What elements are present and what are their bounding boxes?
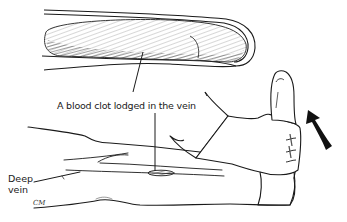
illustration-artwork: [0, 0, 347, 222]
clot-label: A blood clot lodged in the vein: [57, 100, 196, 111]
curved-arrow-up-icon: [306, 110, 332, 150]
vein-magnified: [42, 10, 255, 92]
deep-vein-label-line2: vein: [8, 184, 33, 195]
deep-vein-label-line1: Deep: [8, 173, 33, 184]
deep-vein-label: Deep vein: [8, 173, 33, 195]
artist-signature: CM: [33, 199, 46, 207]
dvt-illustration: A blood clot lodged in the vein Deep vei…: [0, 0, 347, 222]
